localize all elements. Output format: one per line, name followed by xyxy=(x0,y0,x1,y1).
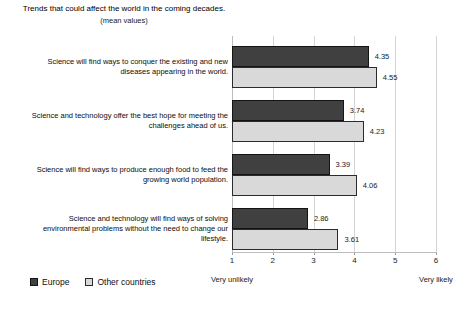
axis-tick-label: 5 xyxy=(385,256,405,265)
bar-value-label: 4.55 xyxy=(383,73,398,83)
axis-max-label: Very likely xyxy=(404,275,468,285)
value-axis-line xyxy=(232,252,437,253)
chart-subtitle: (mean values) xyxy=(10,16,238,26)
chart-figure: Trends that could affect the world in th… xyxy=(0,0,470,309)
bar-europe xyxy=(232,208,308,229)
axis-tick-label: 3 xyxy=(304,256,324,265)
legend-swatch-other-countries-icon xyxy=(85,278,93,286)
title-block: Trends that could affect the world in th… xyxy=(10,3,238,26)
axis-min-label: Very unlikely xyxy=(210,275,254,285)
axis-tick-label: 6 xyxy=(426,256,446,265)
bar-value-label: 4.23 xyxy=(370,127,385,137)
bar-other-countries xyxy=(232,121,364,142)
gridline xyxy=(395,36,396,252)
category-label: Science and technology offer the best ho… xyxy=(16,111,228,131)
bar-other-countries xyxy=(232,175,357,196)
bar-value-label: 3.61 xyxy=(344,235,359,245)
bar-europe xyxy=(232,46,369,67)
bar-other-countries xyxy=(232,67,377,88)
bar-europe xyxy=(232,154,330,175)
category-label: Science will find ways to produce enough… xyxy=(16,165,228,185)
legend-item-europe: Europe xyxy=(30,277,69,287)
bar-europe xyxy=(232,100,344,121)
axis-tick-label: 4 xyxy=(344,256,364,265)
bar-value-label: 4.06 xyxy=(363,181,378,191)
legend-swatch-europe-icon xyxy=(30,278,38,286)
axis-tick-label: 2 xyxy=(263,256,283,265)
category-label: Science will find ways to conquer the ex… xyxy=(16,57,228,77)
legend-label-other-countries: Other countries xyxy=(97,277,155,287)
legend-item-other-countries: Other countries xyxy=(85,277,155,287)
legend: Europe Other countries xyxy=(30,277,156,287)
bar-value-label: 3.39 xyxy=(336,160,351,170)
bar-value-label: 3.74 xyxy=(350,106,365,116)
legend-label-europe: Europe xyxy=(42,277,69,287)
bar-value-label: 2.86 xyxy=(314,214,329,224)
axis-tick-label: 1 xyxy=(222,256,242,265)
gridline xyxy=(436,36,437,252)
bar-other-countries xyxy=(232,229,338,250)
chart-title: Trends that could affect the world in th… xyxy=(10,3,238,14)
category-label: Science and technology will find ways of… xyxy=(16,214,228,244)
bar-value-label: 4.35 xyxy=(375,52,390,62)
